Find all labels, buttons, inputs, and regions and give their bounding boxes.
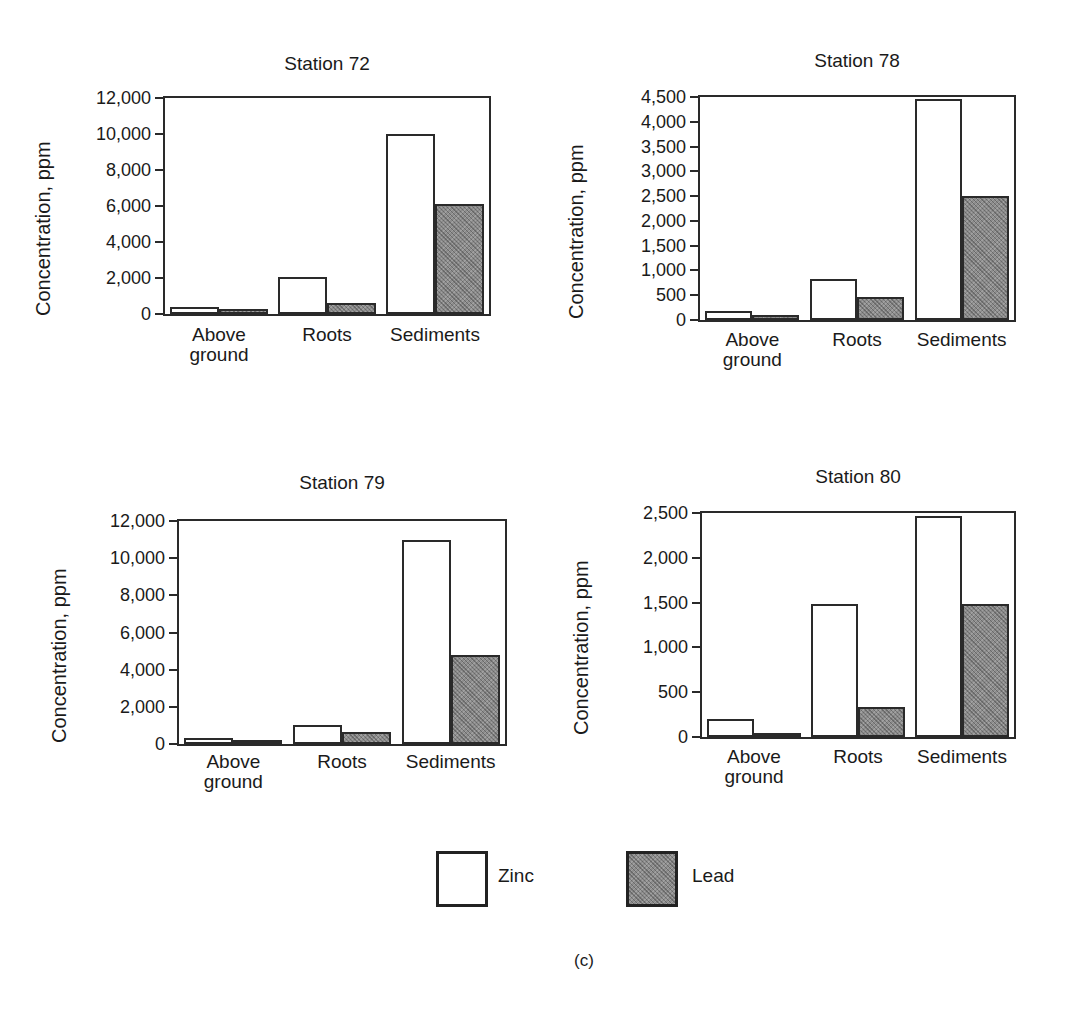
y-tick bbox=[169, 557, 177, 559]
y-tick bbox=[155, 97, 163, 99]
y-axis-label: Concentration, ppm bbox=[48, 523, 72, 743]
y-tick bbox=[155, 205, 163, 207]
y-tick bbox=[692, 736, 700, 738]
y-tick-label: 0 bbox=[85, 735, 165, 753]
figure-caption: (c) bbox=[574, 951, 594, 971]
y-tick bbox=[690, 319, 698, 321]
y-tick-label: 2,500 bbox=[608, 504, 688, 522]
x-category-label: Above ground bbox=[694, 747, 814, 787]
y-tick-label: 1,500 bbox=[608, 594, 688, 612]
bar-lead bbox=[858, 707, 905, 737]
x-category-label: Roots bbox=[267, 325, 387, 345]
y-axis-label: Concentration, ppm bbox=[565, 99, 589, 319]
bar-lead bbox=[962, 196, 1009, 320]
bar-lead bbox=[857, 297, 904, 320]
bar-zinc bbox=[810, 279, 857, 320]
y-tick-label: 500 bbox=[608, 683, 688, 701]
y-tick-label: 2,500 bbox=[606, 187, 686, 205]
y-tick-label: 6,000 bbox=[85, 624, 165, 642]
bar-lead bbox=[233, 740, 282, 744]
bar-lead bbox=[752, 315, 799, 320]
bar-zinc bbox=[915, 99, 962, 320]
y-axis-label: Concentration, ppm bbox=[570, 515, 594, 735]
y-tick bbox=[155, 313, 163, 315]
y-tick-label: 6,000 bbox=[71, 197, 151, 215]
chart-title: Station 79 bbox=[282, 472, 402, 494]
y-tick bbox=[692, 512, 700, 514]
chart-title: Station 78 bbox=[797, 50, 917, 72]
plot-area bbox=[177, 519, 507, 746]
y-tick bbox=[155, 133, 163, 135]
x-category-label: Roots bbox=[282, 752, 402, 772]
y-tick-label: 3,500 bbox=[606, 138, 686, 156]
bar-lead bbox=[435, 204, 484, 314]
y-tick bbox=[169, 669, 177, 671]
legend-swatch-zinc bbox=[436, 851, 488, 907]
y-tick bbox=[690, 170, 698, 172]
bar-lead bbox=[962, 604, 1009, 737]
y-tick bbox=[155, 241, 163, 243]
plot-area bbox=[698, 95, 1016, 322]
y-axis-label: Concentration, ppm bbox=[32, 96, 56, 316]
y-tick bbox=[690, 195, 698, 197]
y-tick-label: 2,000 bbox=[85, 698, 165, 716]
bar-lead bbox=[327, 303, 376, 314]
bar-lead bbox=[219, 309, 268, 314]
bar-lead bbox=[754, 733, 801, 737]
y-tick-label: 0 bbox=[608, 728, 688, 746]
y-tick bbox=[155, 277, 163, 279]
y-tick-label: 12,000 bbox=[71, 89, 151, 107]
x-category-label: Sediments bbox=[391, 752, 511, 772]
legend-label-lead: Lead bbox=[692, 865, 734, 887]
y-tick-label: 500 bbox=[606, 286, 686, 304]
y-tick bbox=[169, 520, 177, 522]
y-tick bbox=[169, 632, 177, 634]
bar-zinc bbox=[293, 725, 342, 744]
y-tick-label: 4,000 bbox=[606, 113, 686, 131]
y-tick-label: 4,500 bbox=[606, 88, 686, 106]
y-tick-label: 10,000 bbox=[71, 125, 151, 143]
plot-area bbox=[163, 96, 491, 316]
legend-swatch-lead bbox=[626, 851, 678, 907]
y-tick-label: 1,000 bbox=[608, 638, 688, 656]
chart-title: Station 72 bbox=[267, 53, 387, 75]
y-tick bbox=[690, 269, 698, 271]
y-tick bbox=[155, 169, 163, 171]
y-tick bbox=[690, 220, 698, 222]
bar-zinc bbox=[278, 277, 327, 314]
bar-zinc bbox=[811, 604, 858, 737]
y-tick bbox=[169, 594, 177, 596]
x-category-label: Roots bbox=[797, 330, 917, 350]
bar-zinc bbox=[386, 134, 435, 314]
y-tick bbox=[690, 146, 698, 148]
bar-lead bbox=[451, 655, 500, 744]
y-tick bbox=[692, 557, 700, 559]
y-tick-label: 1,500 bbox=[606, 237, 686, 255]
y-tick bbox=[169, 706, 177, 708]
bar-lead bbox=[342, 732, 391, 744]
x-category-label: Sediments bbox=[902, 330, 1022, 350]
bar-zinc bbox=[705, 311, 752, 320]
y-tick bbox=[692, 691, 700, 693]
y-tick-label: 8,000 bbox=[71, 161, 151, 179]
y-tick-label: 3,000 bbox=[606, 162, 686, 180]
legend-label-zinc: Zinc bbox=[498, 865, 534, 887]
bar-zinc bbox=[707, 719, 754, 737]
y-tick-label: 1,000 bbox=[606, 261, 686, 279]
x-category-label: Sediments bbox=[902, 747, 1022, 767]
x-category-label: Above ground bbox=[159, 325, 279, 365]
y-tick bbox=[690, 294, 698, 296]
y-tick bbox=[690, 121, 698, 123]
y-tick-label: 10,000 bbox=[85, 549, 165, 567]
bar-zinc bbox=[184, 738, 233, 745]
y-tick-label: 12,000 bbox=[85, 512, 165, 530]
plot-area bbox=[700, 511, 1016, 739]
y-tick bbox=[692, 602, 700, 604]
y-tick bbox=[169, 743, 177, 745]
x-category-label: Sediments bbox=[375, 325, 495, 345]
y-tick-label: 4,000 bbox=[71, 233, 151, 251]
chart-title: Station 80 bbox=[798, 466, 918, 488]
bar-zinc bbox=[170, 307, 219, 314]
y-tick-label: 4,000 bbox=[85, 661, 165, 679]
y-tick bbox=[690, 96, 698, 98]
